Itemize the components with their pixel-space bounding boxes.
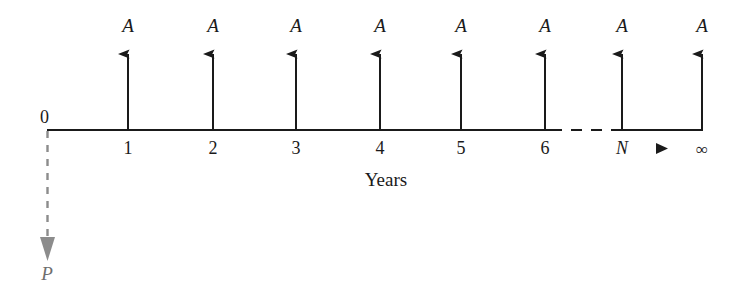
- tick-label-3: 3: [292, 139, 301, 157]
- continuation-marker-icon: [656, 143, 668, 154]
- inflow-label-2: A: [207, 16, 219, 35]
- inflow-label-infinity: A: [696, 16, 708, 35]
- tick-label-6: 6: [541, 139, 550, 157]
- inflow-label-3: A: [290, 16, 302, 35]
- cash-flow-diagram: A A A A A A A A 0 1 2 3 4 5 6 N ∞ Years …: [0, 0, 744, 286]
- inflow-label-1: A: [122, 16, 134, 35]
- inflow-label-6: A: [539, 16, 551, 35]
- origin-label: 0: [40, 108, 49, 126]
- tick-label-5: 5: [457, 139, 466, 157]
- present-value-label: P: [41, 264, 53, 283]
- present-value-arrow: [40, 131, 55, 261]
- tick-label-n: N: [616, 139, 628, 157]
- cash-flow-diagram-canvas: [0, 0, 744, 286]
- inflow-label-5: A: [455, 16, 467, 35]
- inflow-label-n: A: [616, 16, 628, 35]
- axis-label-years: Years: [365, 170, 407, 189]
- tick-label-1: 1: [124, 139, 133, 157]
- tick-label-4: 4: [376, 139, 385, 157]
- tick-label-2: 2: [209, 139, 218, 157]
- tick-label-infinity: ∞: [696, 141, 708, 158]
- present-value-arrowhead: [40, 237, 55, 261]
- inflow-label-4: A: [374, 16, 386, 35]
